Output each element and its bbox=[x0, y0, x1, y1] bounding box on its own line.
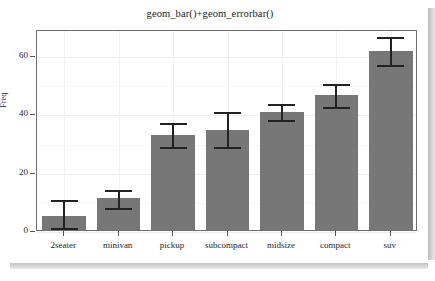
bar-compact bbox=[315, 95, 359, 230]
y-tick-mark bbox=[30, 114, 35, 115]
gridline-horizontal-minor bbox=[37, 86, 416, 87]
errorbar-cap-upper bbox=[377, 37, 404, 39]
x-tick-mark bbox=[227, 231, 228, 236]
y-tick-mark bbox=[30, 173, 35, 174]
y-tick-label-60: 60 bbox=[2, 51, 28, 60]
errorbar-stem bbox=[63, 201, 65, 229]
y-tick-label-20: 20 bbox=[2, 168, 28, 177]
errorbar-cap-upper bbox=[51, 200, 78, 202]
plot-panel bbox=[36, 30, 417, 231]
chart-figure: geom_bar()+geom_errorbar() Freq 2seaterm… bbox=[0, 0, 435, 281]
errorbar-stem bbox=[390, 38, 392, 66]
errorbar-cap-upper bbox=[214, 112, 241, 114]
figure-edge-shadow-right bbox=[428, 8, 435, 260]
errorbar-stem bbox=[118, 191, 120, 208]
bar-midsize bbox=[260, 112, 304, 230]
errorbar-cap-upper bbox=[160, 123, 187, 125]
errorbar-cap-upper bbox=[105, 190, 132, 192]
errorbar-cap-lower bbox=[268, 120, 295, 122]
x-tick-label-midsize: midsize bbox=[254, 240, 308, 250]
errorbar-cap-lower bbox=[105, 208, 132, 210]
y-tick-label-0: 0 bbox=[2, 226, 28, 235]
figure-edge-shadow-bottom bbox=[10, 263, 428, 269]
x-tick-mark bbox=[172, 231, 173, 236]
y-tick-mark bbox=[30, 56, 35, 57]
x-tick-mark bbox=[63, 231, 64, 236]
x-tick-label-compact: compact bbox=[308, 240, 362, 250]
errorbar-cap-lower bbox=[214, 147, 241, 149]
x-tick-label-pickup: pickup bbox=[145, 240, 199, 250]
errorbar-cap-lower bbox=[160, 147, 187, 149]
x-tick-label-subcompact: subcompact bbox=[199, 240, 253, 250]
x-tick-label-minivan: minivan bbox=[90, 240, 144, 250]
errorbar-cap-lower bbox=[51, 228, 78, 230]
errorbar-stem bbox=[335, 85, 337, 108]
gridline-horizontal bbox=[37, 57, 416, 58]
errorbar-cap-lower bbox=[377, 65, 404, 67]
x-tick-mark bbox=[118, 231, 119, 236]
x-tick-mark bbox=[390, 231, 391, 236]
x-tick-label-2seater: 2seater bbox=[36, 240, 90, 250]
bar-pickup bbox=[151, 135, 195, 230]
x-tick-mark bbox=[281, 231, 282, 236]
bar-suv bbox=[369, 51, 413, 230]
chart-title: geom_bar()+geom_errorbar() bbox=[0, 8, 420, 19]
x-tick-mark bbox=[335, 231, 336, 236]
errorbar-stem bbox=[281, 105, 283, 121]
errorbar-stem bbox=[227, 113, 229, 148]
y-tick-mark bbox=[30, 231, 35, 232]
x-tick-label-suv: suv bbox=[363, 240, 417, 250]
errorbar-cap-upper bbox=[323, 84, 350, 86]
errorbar-stem bbox=[172, 124, 174, 147]
errorbar-cap-lower bbox=[323, 107, 350, 109]
y-tick-label-40: 40 bbox=[2, 109, 28, 118]
errorbar-cap-upper bbox=[268, 104, 295, 106]
y-axis-title: Freq bbox=[0, 92, 8, 108]
